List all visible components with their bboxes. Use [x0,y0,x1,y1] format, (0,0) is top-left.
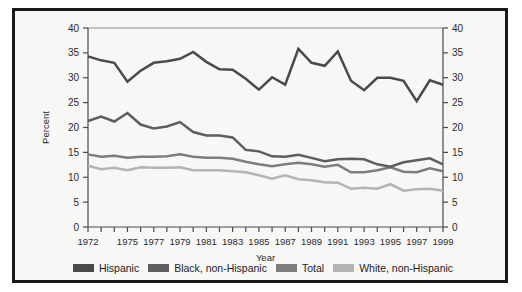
legend-item-white-non-hispanic[interactable]: White, non-Hispanic [333,262,453,274]
svg-text:10: 10 [68,172,80,183]
legend-label: Total [302,262,324,274]
series-line-black-non-hispanic [88,113,443,167]
legend-item-black-non-hispanic[interactable]: Black, non-Hispanic [148,262,267,274]
svg-text:15: 15 [452,147,464,158]
svg-text:20: 20 [452,122,464,133]
svg-text:1977: 1977 [143,236,164,247]
svg-text:5: 5 [73,197,79,208]
svg-text:0: 0 [73,222,79,233]
chart-legend: HispanicBlack, non-HispanicTotalWhite, n… [15,257,511,279]
x-axis-ticks [88,227,443,232]
svg-text:1983: 1983 [222,236,243,247]
legend-label: Hispanic [99,262,139,274]
series-line-total [88,154,443,172]
legend-swatch-icon [73,264,94,272]
y-axis-ticks-left [83,28,88,227]
legend-swatch-icon [148,264,169,272]
svg-text:1993: 1993 [354,236,375,247]
y-axis-ticks-right [443,28,448,227]
legend-label: Black, non-Hispanic [174,262,267,274]
svg-text:1981: 1981 [196,236,217,247]
svg-text:1997: 1997 [406,236,427,247]
legend-swatch-icon [276,264,297,272]
svg-text:10: 10 [452,172,464,183]
svg-text:30: 30 [452,72,464,83]
legend-label: White, non-Hispanic [359,262,453,274]
y-axis-labels-left: 0510152025303540 [68,23,80,233]
series-lines [88,49,443,191]
svg-text:35: 35 [452,47,464,58]
svg-text:30: 30 [68,72,80,83]
svg-text:1999: 1999 [432,236,453,247]
svg-text:1979: 1979 [169,236,190,247]
svg-text:1985: 1985 [248,236,269,247]
line-chart: 0510152025303540 0510152025303540 197219… [15,11,511,286]
figure-container: 0510152025303540 0510152025303540 197219… [0,0,522,292]
svg-text:5: 5 [452,197,458,208]
svg-text:0: 0 [452,222,458,233]
x-axis-labels: 1972197519771979198119831985198719891991… [77,236,453,247]
series-line-white-non-hispanic [88,166,443,191]
svg-text:25: 25 [452,97,464,108]
svg-text:1972: 1972 [77,236,98,247]
svg-text:40: 40 [452,23,464,34]
series-line-hispanic [88,49,443,101]
axes-group [88,28,443,227]
svg-text:25: 25 [68,97,80,108]
svg-text:15: 15 [68,147,80,158]
y-axis-title: Percent [40,111,51,144]
svg-text:1991: 1991 [327,236,348,247]
chart-frame: 0510152025303540 0510152025303540 197219… [12,8,508,283]
plot-wrapper: 0510152025303540 0510152025303540 197219… [15,11,511,286]
svg-text:1995: 1995 [380,236,401,247]
svg-text:1975: 1975 [117,236,138,247]
svg-text:40: 40 [68,23,80,34]
legend-swatch-icon [333,264,354,272]
svg-text:Percent: Percent [40,111,51,144]
svg-text:1987: 1987 [275,236,296,247]
svg-text:20: 20 [68,122,80,133]
svg-text:35: 35 [68,47,80,58]
legend-item-total[interactable]: Total [276,262,324,274]
svg-text:1989: 1989 [301,236,322,247]
y-axis-labels-right: 0510152025303540 [452,23,464,233]
legend-item-hispanic[interactable]: Hispanic [73,262,139,274]
